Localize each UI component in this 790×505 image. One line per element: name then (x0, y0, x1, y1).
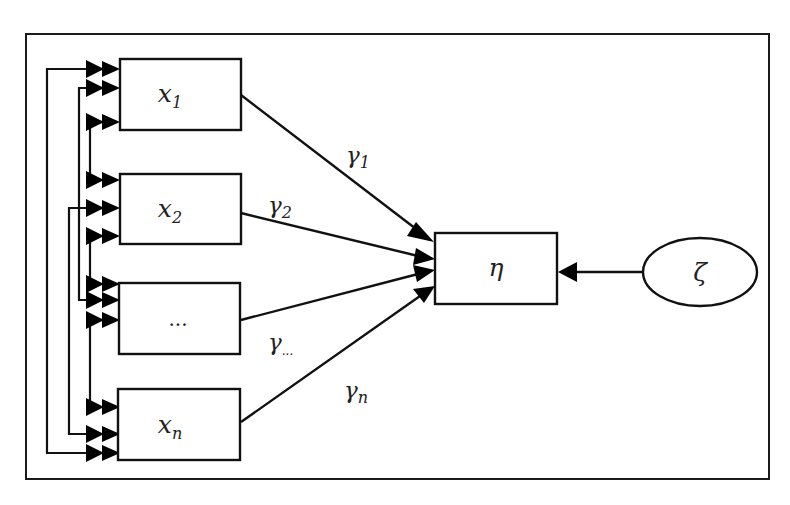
node-zeta: ζ (643, 238, 757, 306)
path-x2-eta (241, 213, 418, 256)
node-x2: x2 (120, 174, 241, 244)
node-xn-base: x (158, 410, 172, 439)
covariance-xdots-xn (90, 320, 103, 407)
node-x2-base: x (158, 194, 172, 223)
node-zeta-label: ζ (693, 258, 708, 287)
path-xn-eta (241, 296, 420, 422)
node-xdots: ... (119, 283, 240, 354)
regression-paths (241, 95, 435, 422)
node-xdots-label: ... (168, 307, 187, 331)
arrowhead-zeta-eta (558, 262, 577, 282)
node-x1: x1 (120, 59, 241, 130)
covariance-x2-xdots (90, 236, 103, 284)
node-xn: xn (118, 389, 240, 460)
node-x1-sub: 1 (172, 93, 182, 112)
path-diagram: x1 x2 ... xn γ1 γ2 γ... γn (0, 0, 790, 505)
coef-gamma-1: γ1 (346, 142, 370, 172)
node-x2-sub: 2 (171, 208, 182, 227)
node-x1-base: x (158, 79, 172, 108)
coef-gamma-2: γ2 (268, 192, 292, 222)
path-xdots-eta (241, 274, 418, 320)
covariance-x1-xn (47, 69, 103, 453)
covariance-x1-x2 (90, 122, 103, 180)
covariance-lines (47, 69, 103, 453)
coef-gamma-dots: γ... (268, 329, 293, 358)
node-xn-sub: n (172, 424, 182, 443)
node-eta: η (435, 233, 557, 304)
node-eta-label: η (489, 253, 504, 282)
coef-gamma-n: γn (344, 377, 368, 407)
